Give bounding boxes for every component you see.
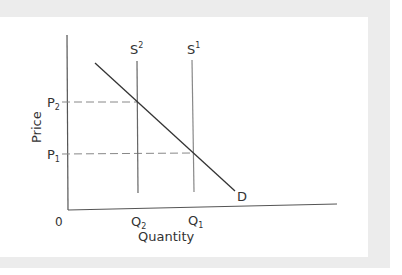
supply-line-s2 bbox=[137, 61, 138, 193]
y-axis bbox=[67, 35, 68, 210]
p1-dashed-line bbox=[62, 153, 193, 154]
x-axis-label: Quantity bbox=[138, 229, 194, 244]
q1-label: Q1 bbox=[188, 213, 203, 230]
s2-label: S2 bbox=[130, 41, 143, 57]
s1-label: S1 bbox=[187, 41, 200, 57]
p1-label: P1 bbox=[47, 147, 60, 164]
demand-line bbox=[95, 63, 235, 191]
x-axis bbox=[68, 204, 337, 210]
p2-label: P2 bbox=[47, 95, 60, 112]
supply-demand-chart: S2 S1 P2 P1 Price 0 Q2 Q1 Quantity D bbox=[0, 0, 402, 275]
origin-label: 0 bbox=[55, 215, 63, 229]
y-axis-label: Price bbox=[29, 111, 44, 143]
supply-line-s1 bbox=[192, 60, 194, 192]
demand-label: D bbox=[237, 189, 247, 204]
